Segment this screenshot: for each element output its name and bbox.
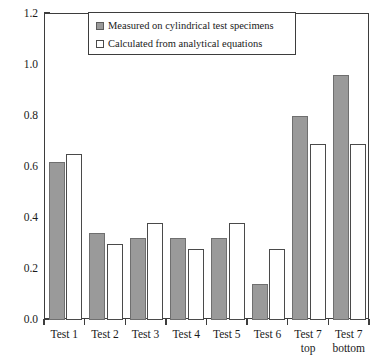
legend-label-calculated: Calculated from analytical equations bbox=[108, 38, 262, 49]
x-tick-label: Test 2 bbox=[85, 328, 126, 342]
x-tick-label: Test 7bottom bbox=[328, 328, 369, 355]
bar-calculated bbox=[350, 144, 366, 320]
x-tick-mark bbox=[125, 319, 126, 325]
bar-calculated bbox=[188, 249, 204, 320]
bar-calculated bbox=[310, 144, 326, 320]
bar-measured bbox=[211, 238, 227, 320]
bar-calculated bbox=[269, 249, 285, 320]
legend-swatch-calculated-icon bbox=[96, 40, 104, 48]
bar-calculated bbox=[66, 154, 82, 320]
bar-measured bbox=[170, 238, 186, 320]
x-tick-label: Test 6 bbox=[247, 328, 288, 342]
bar-chart: Relative sliding in axial direction (mm)… bbox=[0, 0, 375, 364]
x-tick-mark bbox=[165, 319, 166, 325]
bar-measured bbox=[49, 162, 65, 320]
y-tick-label: 0.4 bbox=[0, 209, 38, 225]
x-tick-label: Test 3 bbox=[125, 328, 166, 342]
bar-measured bbox=[333, 75, 349, 320]
plot-area bbox=[44, 13, 369, 319]
y-tick-label: 0.8 bbox=[0, 107, 38, 123]
bar-measured bbox=[252, 284, 268, 320]
x-tick-label: Test 5 bbox=[207, 328, 248, 342]
legend: Measured on cylindrical test specimens C… bbox=[88, 12, 296, 55]
x-tick-mark bbox=[206, 319, 207, 325]
bar-measured bbox=[130, 238, 146, 320]
bar-measured bbox=[89, 233, 105, 320]
y-tick-label: 0.6 bbox=[0, 158, 38, 174]
x-tick-mark bbox=[43, 319, 44, 325]
bar-calculated bbox=[147, 223, 163, 320]
y-tick-label: 1.2 bbox=[0, 5, 38, 21]
y-tick-label: 0.0 bbox=[0, 311, 38, 327]
x-tick-label: Test 1 bbox=[44, 328, 85, 342]
x-tick-mark bbox=[84, 319, 85, 325]
bar-measured bbox=[292, 116, 308, 320]
legend-label-measured: Measured on cylindrical test specimens bbox=[108, 20, 274, 31]
x-tick-label: Test 4 bbox=[166, 328, 207, 342]
x-tick-mark bbox=[328, 319, 329, 325]
bar-calculated bbox=[229, 223, 245, 320]
x-tick-mark bbox=[246, 319, 247, 325]
y-tick-label: 1.0 bbox=[0, 56, 38, 72]
bar-calculated bbox=[107, 244, 123, 321]
x-tick-label: Test 7top bbox=[288, 328, 329, 355]
x-tick-mark bbox=[287, 319, 288, 325]
legend-item-measured: Measured on cylindrical test specimens bbox=[96, 17, 295, 34]
legend-swatch-measured-icon bbox=[96, 22, 104, 30]
x-tick-mark bbox=[368, 319, 369, 325]
legend-item-calculated: Calculated from analytical equations bbox=[96, 35, 295, 52]
y-tick-label: 0.2 bbox=[0, 260, 38, 276]
